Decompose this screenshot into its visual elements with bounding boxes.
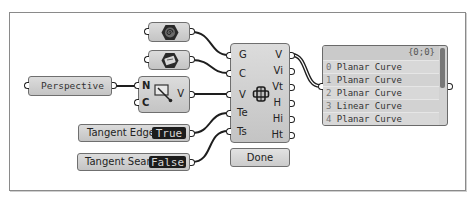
tangent-edges-toggle[interactable]: Tangent Edges True xyxy=(78,124,190,142)
panel-row: 4 Planar Curve xyxy=(323,112,439,125)
hexagon-spiral-icon xyxy=(161,24,179,41)
curve-param-input-grip[interactable] xyxy=(144,56,149,63)
panel-scrollbar[interactable] xyxy=(440,48,445,88)
input-label-v: V xyxy=(239,89,246,100)
main-g-grip[interactable] xyxy=(226,52,231,59)
geometry-param[interactable] xyxy=(148,22,190,42)
output-label-hi: Hi xyxy=(273,113,283,124)
perspective-panel-text: Perspective xyxy=(41,80,104,91)
tangent-seams-toggle[interactable]: Tangent Seams False xyxy=(77,153,190,171)
output-label-h: H xyxy=(273,97,281,108)
input-label-c: C xyxy=(142,97,149,108)
panel-row: 0 Planar Curve xyxy=(323,60,439,73)
panel-row: 1 Planar Curve xyxy=(323,73,439,86)
main-ts-grip[interactable] xyxy=(226,128,231,135)
perspective-panel[interactable]: Perspective xyxy=(28,76,112,96)
tangent-seams-value[interactable]: False xyxy=(149,156,186,168)
output-label-ht: Ht xyxy=(272,129,283,140)
main-c-grip[interactable] xyxy=(226,70,231,77)
output-label-vt: Vt xyxy=(272,81,283,92)
output-label-vi: Vi xyxy=(274,65,283,76)
input-label-c: C xyxy=(239,68,246,79)
panel-path: {0;0} xyxy=(408,47,435,57)
panel-row: 3 Linear Curve xyxy=(323,99,439,112)
perspective-panel-input-grip[interactable] xyxy=(24,82,29,89)
perspective-c-grip[interactable] xyxy=(134,99,139,106)
perspective-arrow-icon xyxy=(154,83,174,103)
curve-param[interactable] xyxy=(148,50,190,70)
done-button[interactable]: Done xyxy=(230,148,290,167)
panel-rows: 0 Planar Curve 1 Planar Curve 2 Planar C… xyxy=(323,60,447,125)
silhouette-component[interactable]: G C V Te Ts V Vi Vt H Hi Ht xyxy=(230,43,290,143)
panel-row: 2 Planar Curve xyxy=(323,86,439,99)
geometry-param-input-grip[interactable] xyxy=(144,28,149,35)
main-te-grip[interactable] xyxy=(226,110,231,117)
main-v-grip[interactable] xyxy=(226,91,231,98)
silhouette-box-icon xyxy=(252,85,270,103)
input-label-te: Te xyxy=(237,107,248,118)
perspective-n-grip[interactable] xyxy=(134,82,139,89)
tangent-edges-value[interactable]: True xyxy=(152,127,186,139)
output-panel[interactable]: {0;0} 0 Planar Curve 1 Planar Curve 2 Pl… xyxy=(322,45,448,126)
input-label-g: G xyxy=(239,49,247,60)
done-button-label: Done xyxy=(231,152,289,163)
output-label-v: V xyxy=(177,88,184,99)
output-label-v: V xyxy=(275,49,282,60)
panel-header: {0;0} xyxy=(323,46,439,60)
input-label-n: N xyxy=(142,80,150,91)
input-label-ts: Ts xyxy=(237,126,247,137)
tangent-edges-label: Tangent Edges xyxy=(87,127,160,138)
perspective-component[interactable]: N C V xyxy=(138,76,190,113)
panel-input-grip[interactable] xyxy=(318,83,323,90)
hexagon-card-icon xyxy=(161,52,179,69)
